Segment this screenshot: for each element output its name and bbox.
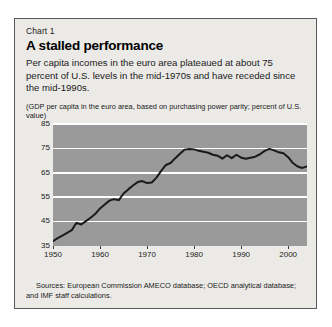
y-axis-tick-label: 45	[26, 216, 50, 225]
sources-text: Sources: European Commission AMECO datab…	[26, 281, 296, 300]
chart-headline: A stalled performance	[26, 39, 306, 54]
x-axis-tick-label: 2000	[279, 250, 297, 259]
x-axis: 195019601970198019902000	[53, 246, 307, 264]
x-axis-tick-mark	[241, 246, 242, 249]
series-line	[53, 124, 307, 246]
chart-card: Chart 1 A stalled performance Per capita…	[14, 18, 317, 309]
x-axis-tick-label: 1980	[185, 250, 203, 259]
chart-deck: Per capita incomes in the euro area plat…	[26, 57, 306, 95]
y-axis-tick-label: 55	[26, 192, 50, 201]
x-axis-tick-label: 1960	[91, 250, 109, 259]
chart-kicker: Chart 1	[26, 26, 306, 36]
y-axis-tick-label: 35	[26, 241, 50, 250]
x-axis-tick-label: 1990	[232, 250, 250, 259]
line-chart: 354555657585 195019601970198019902000	[26, 124, 307, 252]
y-axis-tick-label: 65	[26, 168, 50, 177]
y-axis-tick-label: 75	[26, 143, 50, 152]
x-axis-tick-mark	[53, 246, 54, 249]
x-axis-tick-mark	[194, 246, 195, 249]
x-axis-tick-mark	[147, 246, 148, 249]
x-axis-tick-mark	[288, 246, 289, 249]
x-axis-tick-mark	[100, 246, 101, 249]
series-path	[53, 149, 307, 241]
chart-sources: Sources: European Commission AMECO datab…	[26, 281, 307, 301]
x-axis-tick-label: 1950	[44, 250, 62, 259]
chart-axis-note: (GDP per capita in the euro area, based …	[26, 102, 306, 121]
x-axis-tick-label: 1970	[138, 250, 156, 259]
y-axis-tick-label: 85	[26, 119, 50, 128]
